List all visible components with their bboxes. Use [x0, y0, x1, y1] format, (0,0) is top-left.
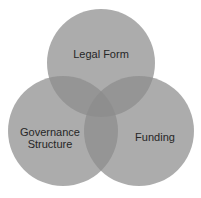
- label-governance-structure: Governance Structure: [14, 126, 86, 150]
- venn-diagram: [0, 0, 201, 198]
- label-governance-line2: Structure: [14, 138, 86, 150]
- label-funding: Funding: [125, 131, 185, 143]
- label-governance-line1: Governance: [14, 126, 86, 138]
- label-legal-form: Legal Form: [61, 48, 141, 60]
